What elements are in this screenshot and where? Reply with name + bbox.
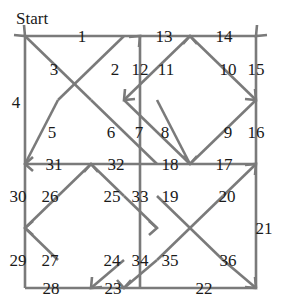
step-label-13: 13 — [156, 27, 173, 46]
step-label-34: 34 — [132, 251, 150, 270]
step-label-1: 1 — [78, 27, 87, 46]
step-label-36: 36 — [220, 251, 237, 270]
arrowhead-a12 — [149, 221, 157, 235]
tour-diagram-svg: 1131432121110154567891631321817302625331… — [0, 0, 285, 302]
step-label-6: 6 — [107, 123, 116, 142]
step-label-11: 11 — [158, 60, 174, 79]
tour-diagram-figure: 1131432121110154567891631321817302625331… — [0, 0, 285, 302]
arrowhead-a2 — [129, 36, 140, 47]
step-label-21: 21 — [256, 219, 273, 238]
step-label-16: 16 — [248, 123, 265, 142]
step-label-18: 18 — [162, 155, 179, 174]
step-label-31: 31 — [46, 155, 63, 174]
step-label-35: 35 — [162, 251, 179, 270]
step-label-24: 24 — [104, 251, 122, 270]
step-label-33: 33 — [132, 187, 149, 206]
step-label-26: 26 — [42, 187, 59, 206]
step-label-12: 12 — [132, 60, 149, 79]
step-label-17: 17 — [216, 155, 234, 174]
start-label: Start — [16, 9, 48, 28]
step-label-7: 7 — [135, 123, 144, 142]
step-label-9: 9 — [224, 123, 233, 142]
step-label-20: 20 — [219, 187, 236, 206]
step-label-2: 2 — [111, 60, 120, 79]
step-label-23: 23 — [105, 279, 122, 298]
step-label-29: 29 — [10, 251, 27, 270]
step-label-10: 10 — [220, 60, 237, 79]
step-label-27: 27 — [42, 251, 60, 270]
step-label-15: 15 — [248, 60, 265, 79]
step-label-4: 4 — [12, 93, 21, 112]
arrowhead-a4 — [256, 25, 267, 36]
step-label-8: 8 — [161, 123, 170, 142]
step-label-19: 19 — [162, 187, 179, 206]
step-label-25: 25 — [104, 187, 121, 206]
step-label-30: 30 — [10, 187, 27, 206]
step-label-5: 5 — [48, 123, 57, 142]
step-label-3: 3 — [50, 60, 59, 79]
step-label-22: 22 — [196, 279, 213, 298]
step-label-28: 28 — [43, 279, 60, 298]
step-label-32: 32 — [108, 155, 125, 174]
step-label-14: 14 — [216, 27, 234, 46]
